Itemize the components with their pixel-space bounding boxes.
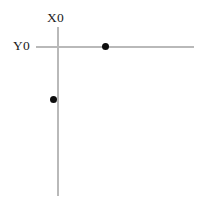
y-axis-label: Y0: [13, 39, 30, 53]
diagram-canvas: X0 Y0: [0, 0, 206, 205]
horizontal-axis-line: [36, 46, 194, 48]
x-axis-label: X0: [47, 11, 64, 25]
data-point-on-horizontal-axis: [102, 43, 109, 50]
vertical-axis-line: [57, 27, 59, 196]
data-point-on-vertical-axis: [50, 96, 57, 103]
